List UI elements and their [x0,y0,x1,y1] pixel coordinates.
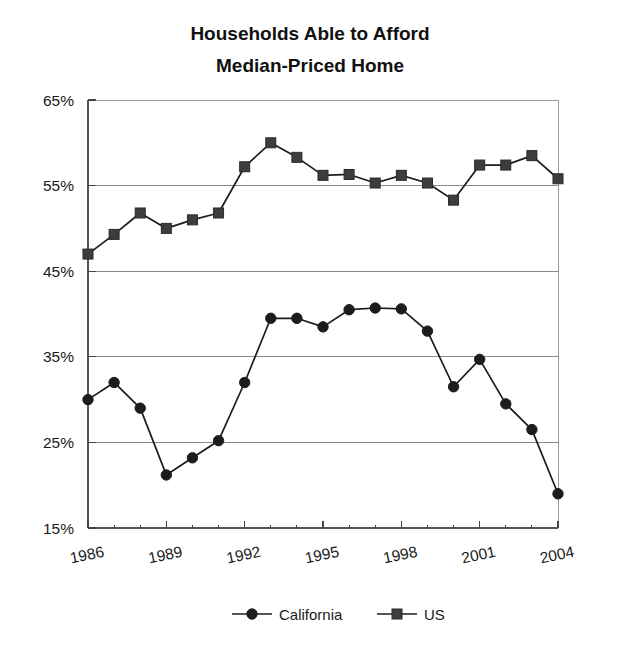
data-point [527,424,537,434]
data-point [449,195,459,205]
data-point [135,208,145,218]
y-tick-label-35: 35% [43,348,74,365]
data-point [501,160,511,170]
data-point [422,326,432,336]
data-point [474,354,484,364]
y-tick-label-65: 65% [43,92,74,109]
data-point [266,138,276,148]
data-point [553,174,563,184]
data-point [161,470,171,480]
data-point [187,215,197,225]
data-point [187,453,197,463]
data-point [344,305,354,315]
data-point [239,377,249,387]
y-tick-label-15: 15% [43,520,74,537]
legend-square-icon [392,609,402,619]
data-point [266,313,276,323]
data-point [501,399,511,409]
data-point [370,303,380,313]
data-point [109,377,119,387]
legend-label: California [279,606,343,623]
data-point [292,152,302,162]
data-point [396,170,406,180]
data-point [240,162,250,172]
data-point [396,304,406,314]
data-point [83,249,93,259]
data-point [109,229,119,239]
y-tick-label-45: 45% [43,263,74,280]
legend-label: US [424,606,445,623]
legend-circle-icon [247,609,257,619]
data-point [344,169,354,179]
data-point [448,382,458,392]
data-point [83,394,93,404]
data-point [292,313,302,323]
data-point [161,223,171,233]
chart-title-line-1: Households Able to Afford [190,23,429,44]
data-point [135,403,145,413]
data-point [475,160,485,170]
data-point [422,178,432,188]
chart-figure: Households Able to Afford Median-Priced … [0,0,621,657]
y-tick-label-25: 25% [43,434,74,451]
data-point [214,208,224,218]
data-point [213,435,223,445]
data-point [318,322,328,332]
data-point [318,170,328,180]
chart-title-line-2: Median-Priced Home [216,55,404,76]
y-tick-label-55: 55% [43,177,74,194]
data-point [370,178,380,188]
data-point [527,151,537,161]
data-point [553,489,563,499]
